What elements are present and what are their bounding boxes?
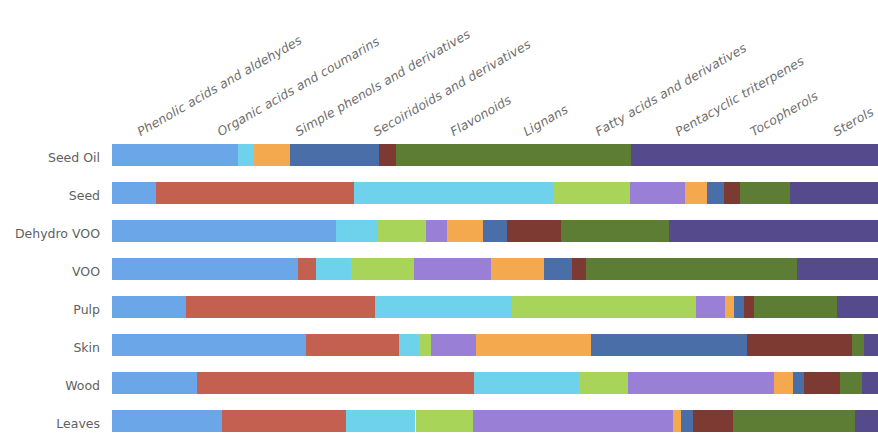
bar-segment bbox=[254, 144, 290, 166]
bar-segment bbox=[431, 334, 475, 356]
bar-segment bbox=[112, 220, 336, 242]
bar-segment bbox=[837, 296, 878, 318]
bar-segment bbox=[681, 410, 693, 432]
bar-segment bbox=[316, 258, 351, 280]
bar-segment bbox=[186, 296, 375, 318]
bar-segment bbox=[733, 410, 854, 432]
bar-segment bbox=[473, 410, 672, 432]
bar-segment bbox=[631, 144, 878, 166]
bar-segment bbox=[586, 258, 797, 280]
bar-segment bbox=[399, 334, 419, 356]
bar-row-voo bbox=[112, 258, 878, 280]
column-header-4: Flavonoids bbox=[448, 92, 514, 139]
bar-segment bbox=[414, 258, 491, 280]
bar-segment bbox=[630, 182, 685, 204]
stacked-bar-chart: Phenolic acids and aldehydesOrganic acid… bbox=[0, 0, 878, 447]
bar-segment bbox=[197, 372, 474, 394]
bar-segment bbox=[747, 334, 852, 356]
row-label-seed-oil: Seed Oil bbox=[0, 150, 100, 165]
column-header-9: Sterols bbox=[831, 104, 877, 139]
bar-segment bbox=[491, 258, 544, 280]
row-label-seed: Seed bbox=[0, 188, 100, 203]
bar-segment bbox=[793, 372, 804, 394]
bar-segment bbox=[693, 410, 733, 432]
row-label-wood: Wood bbox=[0, 378, 100, 393]
bar-segment bbox=[336, 220, 378, 242]
row-label-pulp: Pulp bbox=[0, 302, 100, 317]
bar-row-pulp bbox=[112, 296, 878, 318]
bar-segment bbox=[354, 182, 552, 204]
column-header-6: Fatty acids and derivatives bbox=[593, 40, 749, 139]
bar-row-seed-oil bbox=[112, 144, 878, 166]
bar-segment bbox=[855, 410, 878, 432]
bar-segment bbox=[507, 220, 561, 242]
bar-segment bbox=[351, 258, 414, 280]
bar-segment bbox=[112, 182, 156, 204]
bar-segment bbox=[864, 334, 878, 356]
bar-segment bbox=[290, 144, 379, 166]
bar-segment bbox=[306, 334, 399, 356]
bar-segment bbox=[156, 182, 354, 204]
bar-segment bbox=[797, 258, 878, 280]
bar-segment bbox=[685, 182, 707, 204]
row-label-voo: VOO bbox=[0, 264, 100, 279]
bar-segment bbox=[375, 296, 511, 318]
bar-segment bbox=[740, 182, 790, 204]
bar-segment bbox=[707, 182, 724, 204]
column-header-band: Phenolic acids and aldehydesOrganic acid… bbox=[0, 0, 878, 143]
bar-row-wood bbox=[112, 372, 878, 394]
bar-segment bbox=[754, 296, 838, 318]
bar-segment bbox=[476, 334, 591, 356]
bar-segment bbox=[112, 372, 197, 394]
bar-segment bbox=[426, 220, 447, 242]
bar-segment bbox=[238, 144, 254, 166]
bar-segment bbox=[852, 334, 864, 356]
bar-segment bbox=[298, 258, 316, 280]
bar-segment bbox=[774, 372, 793, 394]
bar-segment bbox=[628, 372, 774, 394]
bar-segment bbox=[378, 220, 426, 242]
column-header-8: Tocopherols bbox=[748, 88, 821, 139]
bar-segment bbox=[673, 410, 682, 432]
bar-segment bbox=[804, 372, 840, 394]
bar-segment bbox=[396, 144, 631, 166]
bar-segment bbox=[724, 182, 741, 204]
plot-area bbox=[112, 143, 878, 447]
bar-segment bbox=[862, 372, 878, 394]
bar-segment bbox=[419, 334, 431, 356]
bar-segment bbox=[447, 220, 483, 242]
bar-segment bbox=[744, 296, 754, 318]
bar-segment bbox=[222, 410, 346, 432]
bar-segment bbox=[553, 182, 630, 204]
bar-segment bbox=[474, 372, 578, 394]
bar-row-dehydro-voo bbox=[112, 220, 878, 242]
bar-segment bbox=[572, 258, 586, 280]
row-label-column: Seed OilSeedDehydro VOOVOOPulpSkinWoodLe… bbox=[0, 143, 108, 447]
bar-segment bbox=[840, 372, 862, 394]
bar-segment bbox=[669, 220, 878, 242]
row-label-leaves: Leaves bbox=[0, 416, 100, 431]
bar-segment bbox=[112, 144, 238, 166]
bar-segment bbox=[379, 144, 395, 166]
row-label-skin: Skin bbox=[0, 340, 100, 355]
bar-segment bbox=[591, 334, 747, 356]
bar-row-skin bbox=[112, 334, 878, 356]
bar-segment bbox=[346, 410, 415, 432]
row-label-dehydro-voo: Dehydro VOO bbox=[0, 226, 100, 241]
bar-segment bbox=[579, 372, 628, 394]
column-header-5: Lignans bbox=[521, 101, 571, 139]
column-header-7: Pentacyclic triterpenes bbox=[673, 53, 807, 139]
bar-segment bbox=[696, 296, 725, 318]
bar-segment bbox=[112, 410, 222, 432]
bar-segment bbox=[725, 296, 735, 318]
bar-segment bbox=[544, 258, 572, 280]
bar-segment bbox=[416, 410, 474, 432]
bar-segment bbox=[790, 182, 878, 204]
bar-segment bbox=[734, 296, 744, 318]
bar-row-seed bbox=[112, 182, 878, 204]
bar-segment bbox=[561, 220, 669, 242]
bar-segment bbox=[112, 334, 306, 356]
bar-row-leaves bbox=[112, 410, 878, 432]
bar-segment bbox=[483, 220, 507, 242]
bar-segment bbox=[112, 258, 298, 280]
